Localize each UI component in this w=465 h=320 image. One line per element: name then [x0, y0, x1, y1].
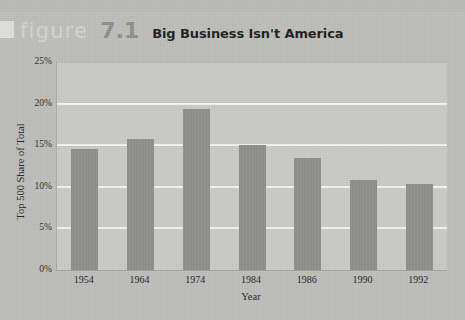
y-axis-tick-label: 5% — [6, 222, 52, 232]
x-axis-tick-label: 1992 — [390, 274, 446, 285]
x-axis-tick-label: 1964 — [112, 274, 168, 285]
bar — [239, 145, 266, 270]
plot-area — [56, 62, 447, 270]
y-axis-tick-label: 0% — [6, 264, 52, 274]
bar — [350, 180, 377, 270]
x-axis-tick-label: 1986 — [279, 274, 335, 285]
bar — [406, 184, 433, 270]
bar — [183, 109, 210, 270]
x-axis-title: Year — [223, 291, 279, 302]
bar-chart: 0%5%10%15%20%25% Top 500 Share of Total … — [0, 0, 465, 320]
y-axis-tick-label: 25% — [6, 56, 52, 66]
x-axis-baseline — [55, 270, 447, 271]
x-axis-tick-label: 1974 — [167, 274, 223, 285]
plot-top-border — [57, 62, 447, 63]
bar — [127, 139, 154, 270]
gridline — [57, 103, 447, 105]
x-axis-tick-label: 1984 — [223, 274, 279, 285]
y-axis-ticks: 0%5%10%15%20%25% — [0, 0, 52, 320]
x-axis-tick-label: 1990 — [334, 274, 390, 285]
y-axis-title: Top 500 Share of Total — [15, 92, 26, 252]
figure-page: figure 7.1 Big Business Isn't America 0%… — [0, 0, 465, 320]
y-axis-tick-label: 20% — [6, 98, 52, 108]
y-axis-tick-label: 10% — [6, 181, 52, 191]
bar — [71, 149, 98, 270]
bar — [294, 158, 321, 270]
x-axis-tick-label: 1954 — [56, 274, 112, 285]
y-axis-tick-label: 15% — [6, 139, 52, 149]
